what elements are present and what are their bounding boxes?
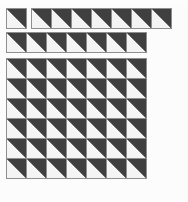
half-dark-square (131, 8, 152, 29)
half-dark-square (126, 32, 147, 53)
half-dark-square (26, 138, 47, 159)
tile-row (6, 139, 147, 159)
tile-group-second-strip (6, 32, 147, 53)
half-dark-square (46, 138, 67, 159)
half-dark-square (106, 138, 127, 159)
half-dark-square (106, 158, 127, 179)
half-dark-square (126, 98, 147, 119)
tile-row (6, 8, 27, 29)
half-dark-square (46, 32, 67, 53)
half-dark-square (26, 158, 47, 179)
half-dark-square (86, 78, 107, 99)
half-dark-square (6, 118, 27, 139)
half-dark-square (6, 32, 27, 53)
half-dark-square (106, 118, 127, 139)
half-dark-square (126, 138, 147, 159)
half-dark-square (66, 118, 87, 139)
half-dark-square (31, 8, 52, 29)
half-dark-square (126, 158, 147, 179)
half-dark-square (26, 98, 47, 119)
half-dark-square (66, 58, 87, 79)
half-dark-square (106, 98, 127, 119)
half-dark-square (6, 98, 27, 119)
half-dark-square (106, 58, 127, 79)
tile-row (31, 8, 172, 29)
half-dark-square (46, 118, 67, 139)
tile-group-main-grid (6, 58, 147, 179)
half-dark-square (66, 32, 87, 53)
half-dark-square (66, 98, 87, 119)
half-dark-square (26, 118, 47, 139)
tile-row (6, 159, 147, 179)
tile-group-top-single-tile (6, 8, 27, 29)
half-dark-square (106, 32, 127, 53)
half-dark-square (86, 58, 107, 79)
half-dark-square (86, 98, 107, 119)
half-dark-square (46, 58, 67, 79)
half-dark-square (46, 98, 67, 119)
half-dark-square (51, 8, 72, 29)
half-dark-square (111, 8, 132, 29)
tile-group-top-strip-right (31, 8, 172, 29)
half-dark-square (71, 8, 92, 29)
half-dark-square (86, 138, 107, 159)
half-dark-square (26, 32, 47, 53)
half-dark-square (6, 138, 27, 159)
tile-row (6, 99, 147, 119)
half-dark-square (66, 138, 87, 159)
half-dark-square (106, 78, 127, 99)
tile-row (6, 58, 147, 79)
half-dark-square (86, 32, 107, 53)
half-dark-square (91, 8, 112, 29)
figure-canvas (0, 0, 188, 202)
tile-row (6, 32, 147, 53)
half-dark-square (6, 158, 27, 179)
half-dark-square (46, 158, 67, 179)
half-dark-square (126, 78, 147, 99)
half-dark-square (86, 118, 107, 139)
half-dark-square (126, 58, 147, 79)
half-dark-square (86, 158, 107, 179)
tile-row (6, 79, 147, 99)
half-dark-square (26, 58, 47, 79)
tile-row (6, 119, 147, 139)
half-dark-square (66, 78, 87, 99)
half-dark-square (46, 78, 67, 99)
half-dark-square (6, 78, 27, 99)
half-dark-square (26, 78, 47, 99)
half-dark-square (126, 118, 147, 139)
half-dark-square (6, 8, 27, 29)
half-dark-square (66, 158, 87, 179)
half-dark-square (6, 58, 27, 79)
half-dark-square (151, 8, 172, 29)
